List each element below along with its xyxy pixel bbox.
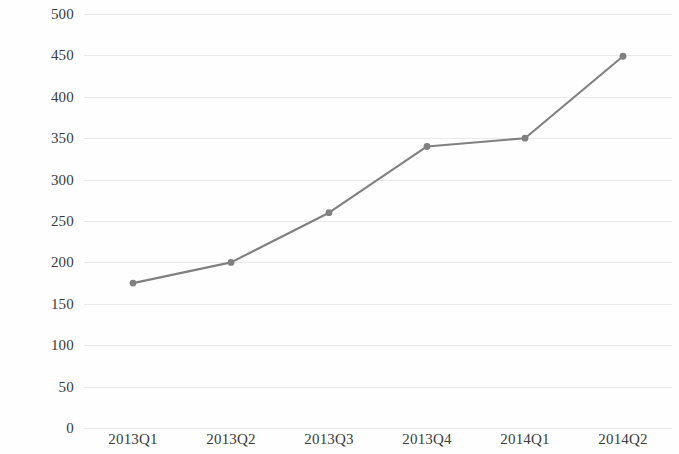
x-axis-tick-label: 2014Q2 xyxy=(598,432,648,447)
x-axis-tick-label: 2013Q2 xyxy=(206,432,256,447)
data-point-marker xyxy=(424,143,431,150)
x-axis-tick-label: 2014Q1 xyxy=(500,432,550,447)
data-point-marker xyxy=(228,259,235,266)
x-axis-tick-label: 2013Q1 xyxy=(108,432,158,447)
x-axis: 2013Q12013Q22013Q32013Q42014Q12014Q2 xyxy=(84,432,672,454)
line-chart: 050100150200250300350400450500 2013Q1201… xyxy=(0,0,679,454)
data-point-marker xyxy=(326,209,333,216)
x-axis-tick-label: 2013Q3 xyxy=(304,432,354,447)
x-axis-tick-label: 2013Q4 xyxy=(402,432,452,447)
data-point-marker xyxy=(620,53,627,60)
data-point-marker xyxy=(522,135,529,142)
data-point-marker xyxy=(130,280,137,287)
series-line xyxy=(133,56,623,283)
series-layer xyxy=(0,0,679,454)
